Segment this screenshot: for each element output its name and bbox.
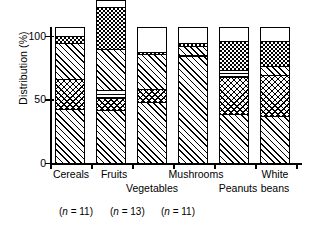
bar-segment-checkerboard: [138, 89, 166, 103]
note-1-value: = 11): [68, 206, 93, 217]
bar-segment-blank: [220, 28, 248, 41]
bar-segment-checkerboard: [261, 75, 289, 116]
bar-segment-diagonal-hatch: [179, 56, 207, 163]
bar-segment-blank: [97, 1, 125, 8]
bar-segment-horizontal-lines: [97, 90, 125, 98]
note-3-value: = 11): [170, 206, 195, 217]
bar-segment-checkerboard: [97, 98, 125, 110]
bar-segment-diagonal-hatch-2: [97, 49, 125, 90]
bar-segment-diagonal-hatch-2: [179, 46, 207, 55]
sample-size-note-2: (n = 13): [110, 206, 145, 218]
bar-segment-diagonal-hatch: [97, 110, 125, 163]
bar-mushrooms[interactable]: [178, 27, 208, 164]
y-axis-tick-labels: 100 50 0: [12, 0, 46, 231]
bar-segment-blank: [138, 28, 166, 52]
bar-segment-diagonal-hatch: [138, 102, 166, 163]
bar-segment-blank: [261, 28, 289, 41]
bar-segment-diagonal-hatch: [220, 114, 248, 163]
bar-segment-blank: [56, 28, 84, 36]
note-2-value: = 13): [119, 206, 145, 217]
sample-size-note-3: (n = 11): [161, 206, 195, 218]
x-label-vegetables: Vegetables: [112, 182, 192, 194]
y-tick-label-50: 50: [20, 94, 46, 104]
x-label-fruits: Fruits: [79, 168, 149, 180]
bar-segment-horizontal-lines: [220, 70, 248, 77]
bar-fruits[interactable]: [96, 0, 126, 164]
x-label-white-beans-line1: White: [240, 168, 310, 180]
bar-segment-diagonal-hatch-2: [261, 66, 289, 75]
bar-vegetables[interactable]: [137, 27, 167, 164]
bar-segment-blank: [179, 28, 207, 43]
plot-area: [50, 27, 302, 164]
bar-segment-dotted: [261, 41, 289, 65]
y-tick-label-100: 100: [20, 31, 46, 41]
bar-segment-dotted: [220, 41, 248, 69]
bar-cereals[interactable]: [55, 27, 85, 164]
bar-segment-dotted: [56, 36, 84, 43]
stacked-bar-chart: Distribution (%) 100 50 0 Cereals Fruits…: [0, 0, 317, 231]
bar-peanuts[interactable]: [219, 27, 249, 164]
x-label-white-beans-line2: beans: [240, 182, 310, 194]
x-label-mushrooms: Mushrooms: [151, 168, 241, 180]
bar-white-beans[interactable]: [260, 27, 290, 164]
bar-segment-diagonal-hatch-2: [56, 43, 84, 79]
bar-segment-diagonal-hatch: [261, 116, 289, 163]
bar-segment-diagonal-hatch: [56, 109, 84, 163]
sample-size-note-1: (n = 11): [59, 206, 93, 218]
bar-segment-dotted: [97, 7, 125, 49]
y-tick-label-0: 0: [20, 158, 46, 168]
bar-segment-diagonal-hatch-2: [138, 54, 166, 89]
bar-segment-checkerboard: [56, 79, 84, 109]
bar-segment-checkerboard: [220, 77, 248, 115]
